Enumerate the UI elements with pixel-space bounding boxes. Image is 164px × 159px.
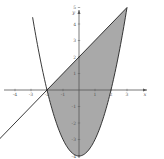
x-tick-label: -2 — [45, 92, 50, 97]
x-tick-label: -3 — [29, 92, 34, 97]
x-axis-label: x — [144, 91, 147, 97]
y-tick-label: -1 — [72, 104, 77, 109]
shaded-area — [47, 8, 127, 157]
y-tick-label: -2 — [72, 121, 77, 126]
y-axis-arrow-icon — [78, 10, 81, 14]
x-tick-label: 3 — [126, 92, 129, 97]
y-tick-label: -4 — [72, 154, 77, 159]
x-tick-label: 1 — [94, 92, 97, 97]
shaded-region — [47, 8, 127, 157]
x-tick-label: -1 — [61, 92, 66, 97]
y-axis-label: y — [71, 9, 75, 16]
y-tick-label: 4 — [73, 22, 76, 27]
y-tick-label: 3 — [73, 38, 76, 43]
y-tick-label: -3 — [72, 137, 77, 142]
y-tick-label: 2 — [73, 55, 76, 60]
x-tick-label: -4 — [13, 92, 18, 97]
x-tick-label: 2 — [110, 92, 113, 97]
area-between-curves-diagram: -4-3-2-1123x54321-1-2-3-4y — [0, 0, 164, 158]
y-tick-label: 1 — [73, 71, 76, 76]
